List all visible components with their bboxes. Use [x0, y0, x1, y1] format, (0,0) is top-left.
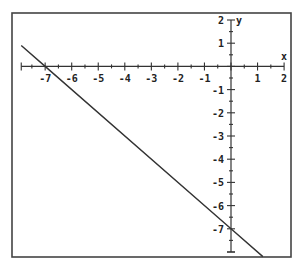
y-tick-label: 2	[218, 15, 224, 26]
x-tick-label: -2	[172, 73, 184, 84]
axes	[21, 20, 284, 252]
x-axis-label: x	[281, 51, 287, 62]
x-tick-label: 1	[255, 73, 261, 84]
y-tick-label: -4	[212, 154, 224, 165]
y-tick-label: -7	[212, 224, 224, 235]
tick-labels: -7-6-5-4-3-2-11221-1-2-3-4-5-6-7	[39, 15, 287, 235]
y-tick-label: -6	[212, 201, 224, 212]
y-tick-label: -2	[212, 108, 224, 119]
x-tick-label: -5	[92, 73, 104, 84]
y-tick-label: -1	[212, 85, 224, 96]
x-tick-label: -1	[198, 73, 210, 84]
y-tick-label: -3	[212, 131, 224, 142]
y-axis-label: y	[236, 15, 242, 26]
y-tick-label: -5	[212, 177, 224, 188]
x-tick-label: -4	[119, 73, 131, 84]
x-tick-label: -6	[66, 73, 78, 84]
x-tick-label: -7	[39, 73, 51, 84]
x-tick-label: -3	[145, 73, 157, 84]
ticks	[21, 20, 284, 252]
chart: -7-6-5-4-3-2-11221-1-2-3-4-5-6-7 x y	[0, 0, 293, 262]
plot-frame	[12, 13, 291, 257]
x-tick-label: 2	[281, 73, 287, 84]
y-tick-label: 1	[218, 38, 224, 49]
line-series	[21, 46, 263, 257]
